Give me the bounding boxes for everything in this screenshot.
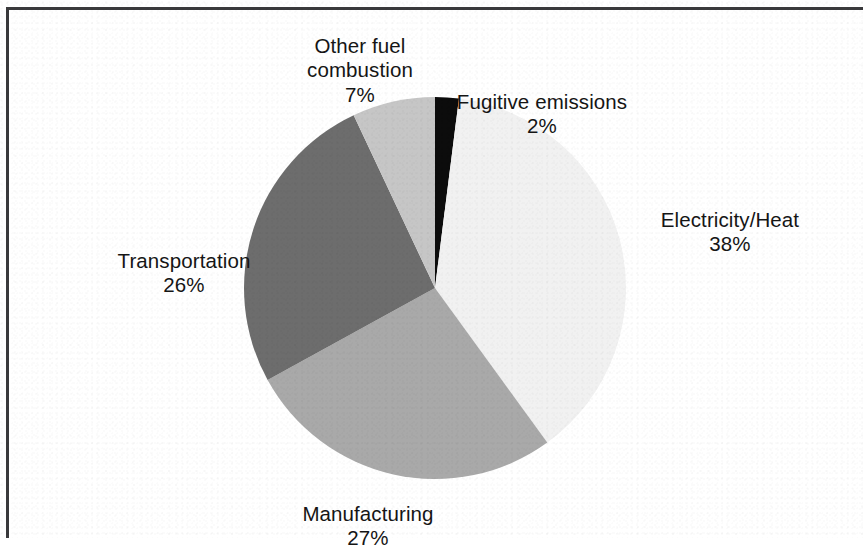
pie-label-fugitive-emissions-name: Fugitive emissions: [457, 90, 627, 113]
pie-label-transportation-value: 26%: [78, 273, 290, 297]
pie-label-electricity-heat-name: Electricity/Heat: [661, 208, 799, 231]
pie-label-fugitive-emissions: Fugitive emissions 2%: [416, 66, 668, 163]
pie-label-transportation: Transportation 26%: [78, 225, 290, 322]
pie-label-manufacturing: Manufacturing 27%: [262, 478, 474, 549]
pie-label-other-fuel-combustion-name: Other fuel combustion: [307, 34, 413, 81]
pie-label-manufacturing-value: 27%: [262, 526, 474, 549]
pie-label-transportation-name: Transportation: [118, 249, 251, 272]
pie-label-fugitive-emissions-value: 2%: [416, 114, 668, 138]
pie-label-electricity-heat-value: 38%: [614, 232, 846, 256]
pie-label-manufacturing-name: Manufacturing: [302, 502, 433, 525]
pie-label-electricity-heat: Electricity/Heat 38%: [614, 184, 846, 281]
